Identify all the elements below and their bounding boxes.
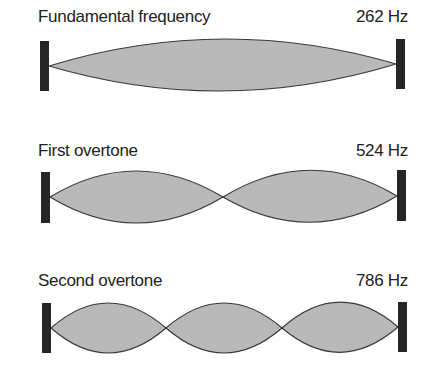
fundamental-wave	[40, 39, 405, 91]
first-overtone-wave	[41, 170, 406, 223]
standing-wave-diagram	[0, 0, 437, 370]
left-fixed-end	[41, 172, 50, 223]
right-fixed-end	[397, 170, 406, 221]
second-overtone-wave	[42, 302, 407, 353]
right-fixed-end	[398, 302, 407, 352]
left-fixed-end	[40, 41, 49, 91]
right-fixed-end	[396, 39, 405, 89]
left-fixed-end	[42, 303, 51, 353]
